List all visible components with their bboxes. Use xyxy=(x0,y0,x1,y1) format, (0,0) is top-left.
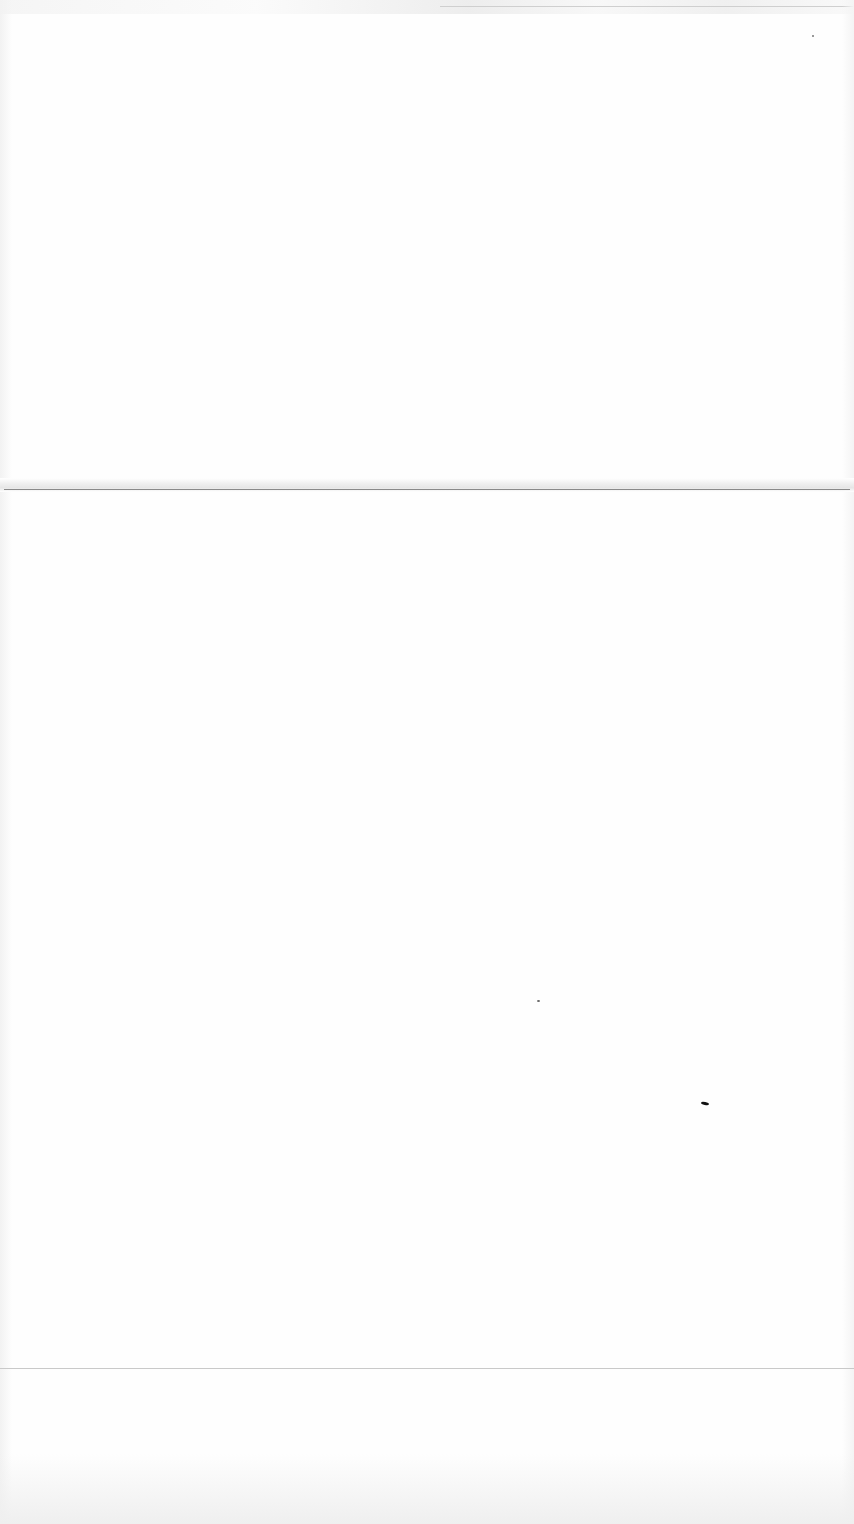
scan-edge-right xyxy=(842,0,854,1524)
scan-edge-noise-bottom xyxy=(0,1454,854,1524)
dust-speck xyxy=(701,1101,709,1106)
fold-line-upper xyxy=(0,478,854,492)
fold-line-lower xyxy=(0,1368,854,1369)
blank-scanned-page xyxy=(0,0,854,1524)
scan-edge-left xyxy=(0,0,12,1524)
dust-speck xyxy=(537,1000,540,1002)
dust-speck xyxy=(812,35,814,37)
top-edge-rule xyxy=(440,6,854,7)
scan-edge-noise-top xyxy=(0,0,854,14)
